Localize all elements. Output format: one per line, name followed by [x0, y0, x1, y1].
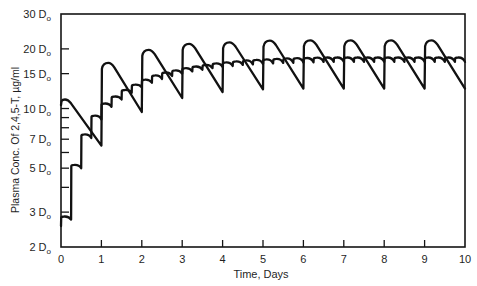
y-tick-label-value: 3 D — [29, 206, 46, 218]
y-tick-label-subscript: o — [47, 247, 52, 256]
y-tick-label-subscript: o — [47, 109, 52, 118]
log-concentration-chart: 2 Do3 Do5 Do7 Do10 Do15 Do20 Do30 Do 012… — [0, 0, 477, 286]
plot-curves — [61, 40, 465, 226]
y-tick-label-subscript: o — [47, 74, 52, 83]
y-tick-label: 7 Do — [29, 133, 51, 148]
y-tick-label-value: 5 D — [29, 162, 46, 174]
y-tick-label-value: 20 D — [23, 43, 46, 55]
y-axis-tick-labels: 2 Do3 Do5 Do7 Do10 Do15 Do20 Do30 Do — [23, 8, 51, 256]
x-tick-label: 7 — [341, 253, 347, 265]
x-tick-label: 9 — [422, 253, 428, 265]
y-tick-label-value: 15 D — [23, 68, 46, 80]
x-tick-label: 8 — [381, 253, 387, 265]
y-tick-label: 3 Do — [29, 206, 51, 221]
y-tick-label-value: 10 D — [23, 103, 46, 115]
y-tick-label-value: 2 D — [29, 241, 46, 253]
y-tick-label-subscript: o — [47, 139, 52, 148]
y-tick-label: 30 Do — [23, 8, 51, 23]
x-tick-label: 1 — [98, 253, 104, 265]
x-axis-title: Time, Days — [233, 268, 289, 280]
x-axis-tick-labels: 012345678910 — [58, 253, 471, 265]
y-tick-label-subscript: o — [47, 14, 52, 23]
figure: 2 Do3 Do5 Do7 Do10 Do15 Do20 Do30 Do 012… — [0, 0, 477, 286]
y-tick-label-value: 30 D — [23, 8, 46, 20]
x-tick-label: 10 — [459, 253, 471, 265]
y-tick-label: 10 Do — [23, 103, 51, 118]
x-tick-label: 4 — [220, 253, 226, 265]
y-axis-tick-marks — [61, 49, 69, 212]
x-tick-label: 3 — [179, 253, 185, 265]
x-tick-label: 6 — [300, 253, 306, 265]
y-axis-title: Plasma Conc. Of 2,4,5-T, µg/ml — [9, 67, 21, 213]
x-axis-tick-marks — [101, 240, 424, 247]
x-tick-label: 0 — [58, 253, 64, 265]
y-tick-label-value: 7 D — [29, 133, 46, 145]
y-tick-label-subscript: o — [47, 49, 52, 58]
y-tick-label-subscript: o — [47, 212, 52, 221]
x-tick-label: 2 — [139, 253, 145, 265]
y-tick-label: 15 Do — [23, 68, 51, 83]
x-tick-label: 5 — [260, 253, 266, 265]
y-tick-label: 20 Do — [23, 43, 51, 58]
y-tick-label: 5 Do — [29, 162, 51, 177]
y-tick-label: 2 Do — [29, 241, 51, 256]
y-tick-label-subscript: o — [47, 168, 52, 177]
